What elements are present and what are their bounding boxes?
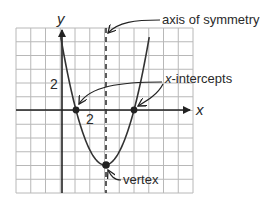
parabola-diagram: y x 2 2 axis of symmetry x-intercepts ve… (0, 0, 272, 205)
x-intercept-point-right (131, 107, 138, 114)
vertex-point (102, 161, 110, 169)
x-intercepts-callout-arrow-right (138, 84, 163, 106)
x-intercepts-label: x-intercepts (164, 71, 233, 86)
x-intercept-point-left (73, 107, 80, 114)
y-axis-label: y (56, 10, 66, 27)
axis-of-symmetry-label: axis of symmetry (162, 12, 260, 27)
x-axis-label: x (195, 101, 204, 118)
x-tick-label: 2 (86, 111, 94, 127)
x-intercepts-label-text: -intercepts (172, 71, 233, 86)
vertex-label: vertex (123, 172, 159, 187)
y-tick-label: 2 (50, 76, 58, 92)
x-intercepts-callout-arrow-left (79, 82, 162, 104)
